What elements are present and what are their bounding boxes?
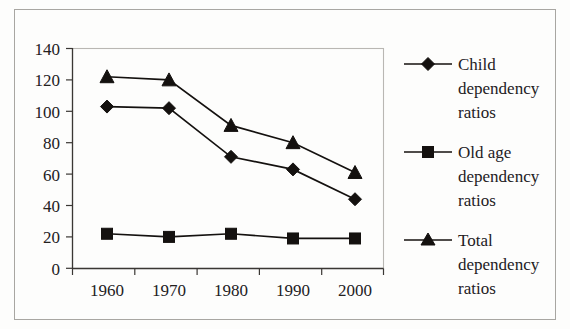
x-tick-label-2000: 2000 [338,281,372,300]
y-axis-ticks [66,49,73,269]
series-layer [100,70,362,244]
legend-label-child-line2: dependency [458,79,540,98]
legend-item-child: Child dependency ratios [404,55,540,122]
x-tick-label-1980: 1980 [214,281,248,300]
x-tick-label-1970: 1970 [152,281,186,300]
legend-label-child-line3: ratios [458,103,496,122]
legend-label-old-age-line2: dependency [458,167,540,186]
line-chart: 140 120 100 80 60 40 20 0 1960 1970 1980… [0,0,570,329]
series-diamond [101,100,362,206]
legend-label-child-line1: Child [458,55,496,74]
legend-label-total-line3: ratios [458,279,496,298]
diamond-marker-icon [349,193,362,206]
series-square [102,228,361,244]
chart-figure: 140 120 100 80 60 40 20 0 1960 1970 1980… [0,0,570,329]
triangle-marker-icon [224,118,238,131]
square-marker-icon [102,228,113,239]
diamond-marker-icon [422,58,435,71]
legend-item-old-age: Old age dependency ratios [404,143,540,210]
legend-label-old-age-line3: ratios [458,191,496,210]
triangle-marker-icon [421,233,435,245]
y-tick-label-60: 60 [43,166,60,185]
diamond-marker-icon [101,100,114,113]
y-tick-label-20: 20 [43,228,60,247]
y-tick-label-100: 100 [35,103,61,122]
y-tick-label-140: 140 [35,40,61,59]
square-marker-icon [164,231,175,242]
legend-label-old-age-line1: Old age [458,143,511,162]
legend-item-total: Total dependency ratios [404,231,540,298]
square-marker-icon [423,147,434,158]
triangle-marker-icon [348,166,362,179]
square-marker-icon [226,228,237,239]
y-tick-label-40: 40 [43,197,60,216]
legend-label-total-line1: Total [458,231,493,250]
y-tick-label-80: 80 [43,134,60,153]
x-tick-label-1960: 1960 [90,281,124,300]
square-marker-icon [288,233,299,244]
x-tick-label-1990: 1990 [276,281,310,300]
x-axis-ticks [73,269,384,276]
y-tick-label-120: 120 [35,71,61,90]
chart-legend: Child dependency ratios Old age dependen… [404,55,540,298]
y-tick-label-0: 0 [52,260,61,279]
square-marker-icon [350,233,361,244]
legend-label-total-line2: dependency [458,255,540,274]
diamond-marker-icon [287,163,300,176]
